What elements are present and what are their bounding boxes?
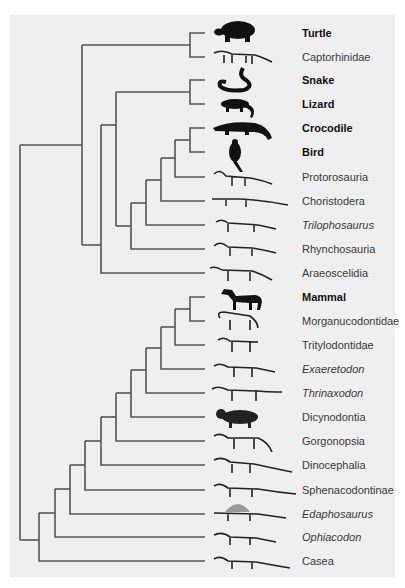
morganucodontid-skeleton — [219, 312, 258, 330]
protorosaur-skeleton — [214, 171, 272, 186]
leaf-label-edaphosaurus: Edaphosaurus — [302, 507, 373, 521]
leaf-label-tritylodontidae: Tritylodontidae — [302, 338, 374, 352]
leaf-label-turtle: Turtle — [302, 26, 332, 40]
leaf-label-exaeretodon: Exaeretodon — [302, 362, 364, 376]
tree-branches — [20, 33, 205, 561]
edaphosaurus-skeleton — [214, 504, 286, 521]
araeoscelid-skeleton — [210, 267, 272, 281]
leaf-label-thrinaxodon: Thrinaxodon — [302, 386, 363, 400]
gorgonopsian-skeleton — [214, 434, 272, 452]
sphenacodont-skeleton — [214, 484, 296, 497]
leaf-label-bird: Bird — [302, 145, 324, 159]
leaf-label-lizard: Lizard — [302, 97, 334, 111]
leaf-label-araeoscelidia: Araeoscelidia — [302, 266, 368, 280]
leaf-label-captorhinidae: Captorhinidae — [302, 50, 371, 64]
turtle-silhouette — [214, 21, 255, 42]
snake-silhouette — [220, 68, 250, 91]
captorhinid-skeleton — [214, 51, 272, 64]
leaf-label-ophiacodon: Ophiacodon — [302, 530, 361, 544]
rhynchosaur-skeleton — [214, 243, 276, 256]
leaf-label-sphenacodontinae: Sphenacodontinae — [302, 483, 394, 497]
dicynodont-skeleton — [216, 409, 258, 428]
ophiacodon-skeleton — [214, 533, 276, 545]
horse-silhouette — [221, 289, 262, 310]
exaeretodon-skeleton — [214, 364, 275, 377]
leaf-label-gorgonopsia: Gorgonopsia — [302, 434, 365, 448]
leaf-label-mammal: Mammal — [302, 290, 346, 304]
leaf-label-dinocephalia: Dinocephalia — [302, 458, 366, 472]
crocodile-silhouette — [213, 122, 272, 140]
leaf-label-protorosauria: Protorosauria — [302, 170, 368, 184]
trilophosaurus-skeleton — [216, 220, 276, 232]
leaf-label-snake: Snake — [302, 73, 334, 87]
dinocephalian-skeleton — [214, 458, 292, 473]
leaf-label-dicynodontia: Dicynodontia — [302, 410, 366, 424]
leaf-label-choristodera: Choristodera — [302, 194, 365, 208]
bird-silhouette — [229, 139, 243, 172]
tritylodontid-skeleton — [218, 338, 258, 352]
leaf-label-trilophosaurus: Trilophosaurus — [302, 218, 374, 232]
leaf-label-morganucodontidae: Morganucodontidae — [302, 314, 399, 328]
leaf-label-rhynchosauria: Rhynchosauria — [302, 242, 375, 256]
leaf-label-crocodile: Crocodile — [302, 121, 353, 135]
thrinaxodon-skeleton — [212, 387, 282, 401]
casea-skeleton — [214, 557, 290, 569]
lizard-silhouette — [221, 99, 254, 118]
leaf-label-casea: Casea — [302, 554, 334, 568]
choristodere-skeleton — [212, 199, 288, 207]
